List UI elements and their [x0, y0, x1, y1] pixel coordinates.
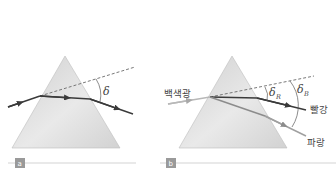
panel-b: δ R δ B 백색광 빨강 파랑 b: [160, 56, 336, 168]
red-arrow: [257, 98, 289, 106]
blue-label: 파랑: [307, 137, 325, 148]
panel-a: δ a: [8, 56, 136, 168]
white-light-label: 백색광: [164, 88, 191, 99]
prism-a: [12, 56, 120, 148]
panel-label-a: a: [18, 160, 22, 168]
deviation-sub-red: R: [275, 93, 281, 101]
incident-arrow-a: [8, 103, 21, 108]
deviation-label-red: δ: [269, 86, 276, 99]
deviation-label-blue: δ: [297, 83, 304, 96]
deviation-arc-a: [96, 79, 101, 102]
red-internal-ray: [210, 97, 257, 98]
deviation-sub-blue: B: [303, 90, 309, 98]
white-light-arrow: [168, 100, 190, 104]
red-label: 빨강: [310, 104, 328, 115]
deviation-label-a: δ: [103, 85, 110, 98]
prism-dispersion-diagram: δ a δ R δ B 백색광 빨강 파랑 b: [0, 0, 336, 181]
panel-label-b: b: [169, 160, 174, 168]
deviation-arc-red: [265, 87, 268, 101]
